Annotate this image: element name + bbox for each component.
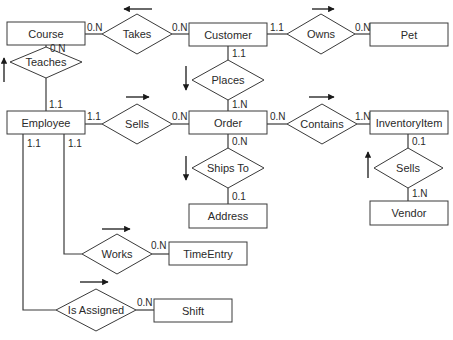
relationship-sells-vendor: Sells xyxy=(374,148,443,188)
cardinality-label: 0.1 xyxy=(232,191,246,202)
relationship-label: Sells xyxy=(396,162,420,174)
entity-course: Course xyxy=(7,22,85,45)
entity-label: Shift xyxy=(182,305,204,317)
cardinality-label: 0.N xyxy=(151,240,167,251)
er-diagram: Course Customer Pet Employee Order Inven… xyxy=(0,0,453,340)
relationship-teaches: Teaches xyxy=(10,47,82,78)
relationship-takes: Takes xyxy=(102,14,172,54)
entity-label: Address xyxy=(208,210,249,222)
relationship-label: Teaches xyxy=(26,56,67,68)
entity-label: Employee xyxy=(22,117,71,129)
relationship-label: Sells xyxy=(125,118,149,130)
entity-inventory-item: InventoryItem xyxy=(370,111,448,134)
cardinality-label: 1.1 xyxy=(68,138,82,149)
entity-label: Pet xyxy=(401,29,418,41)
entity-order: Order xyxy=(189,111,267,134)
cardinality-label: 1.1 xyxy=(270,22,284,33)
cardinality-label: 0.N xyxy=(50,43,66,54)
relationship-label: Is Assigned xyxy=(68,304,124,316)
relationship-contains: Contains xyxy=(287,104,357,144)
cardinality-label: 0.N xyxy=(232,136,248,147)
cardinality-label: 1.1 xyxy=(232,48,246,59)
relationship-owns: Owns xyxy=(287,14,355,54)
relationship-label: Places xyxy=(211,74,245,86)
relationship-label: Owns xyxy=(307,28,336,40)
cardinality-label: 1.N xyxy=(355,111,371,122)
entity-label: Vendor xyxy=(392,207,427,219)
cardinality-label: 0.N xyxy=(172,111,188,122)
relationship-places: Places xyxy=(192,60,264,100)
relationship-label: Contains xyxy=(300,118,344,130)
cardinality-label: 0.1 xyxy=(412,136,426,147)
entity-time-entry: TimeEntry xyxy=(169,242,247,265)
cardinality-label: 1.N xyxy=(412,188,428,199)
entity-employee: Employee xyxy=(7,111,85,134)
relationship-label: Takes xyxy=(123,28,152,40)
entity-label: Order xyxy=(214,117,242,129)
relationship-works: Works xyxy=(82,234,152,274)
entity-address: Address xyxy=(189,204,267,228)
cardinality-label: 1.1 xyxy=(49,99,63,110)
entity-vendor: Vendor xyxy=(370,201,448,225)
relationship-sells-employee: Sells xyxy=(102,104,172,144)
relationship-is-assigned: Is Assigned xyxy=(56,289,136,331)
entity-shift: Shift xyxy=(154,299,232,322)
relationship-label: Works xyxy=(102,248,133,260)
relationship-ships-to: Ships To xyxy=(192,148,264,188)
cardinality-label: 1.1 xyxy=(87,111,101,122)
cardinality-label: 0.N xyxy=(270,111,286,122)
cardinality-label: 0.N xyxy=(355,22,371,33)
cardinality-label: 0.N xyxy=(137,297,153,308)
entity-customer: Customer xyxy=(189,23,267,46)
entity-label: InventoryItem xyxy=(376,117,443,129)
relationship-label: Ships To xyxy=(207,162,249,174)
entity-label: TimeEntry xyxy=(183,248,233,260)
cardinality-label: 1.1 xyxy=(27,138,41,149)
cardinality-label: 1.N xyxy=(232,99,248,110)
entity-pet: Pet xyxy=(370,23,448,46)
entity-label: Course xyxy=(28,28,63,40)
cardinality-label: 0.N xyxy=(87,22,103,33)
cardinality-label: 0.N xyxy=(172,22,188,33)
entity-label: Customer xyxy=(204,29,252,41)
